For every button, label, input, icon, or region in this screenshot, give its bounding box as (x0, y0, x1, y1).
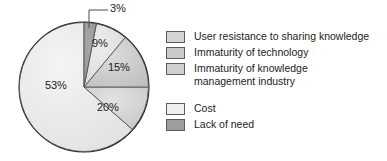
legend-swatch-icon-user-resistance (166, 31, 185, 43)
legend-swatch-icon-immaturity-km-industry (166, 63, 185, 75)
legend-swatch-icon-lack-of-need (166, 119, 185, 131)
legend-swatch-icon-cost (166, 103, 185, 115)
legend-group-top: User resistance to sharing knowledge Imm… (166, 30, 386, 88)
legend-label-line-2: management industry (194, 75, 308, 88)
legend-label-user-resistance: User resistance to sharing knowledge (194, 30, 369, 43)
pie-label-9: 9% (92, 37, 108, 49)
pie-chart-figure: 3% 9% 15% 20% 53% User resistance to sha… (0, 0, 387, 161)
legend-item-user-resistance[interactable]: User resistance to sharing knowledge (166, 30, 386, 43)
pie-label-3: 3% (110, 2, 126, 14)
legend: User resistance to sharing knowledge Imm… (166, 30, 386, 134)
pie-label-53: 53% (45, 79, 67, 91)
legend-label-line-1: Immaturity of knowledge (194, 62, 308, 74)
pie-label-15: 15% (108, 61, 130, 73)
legend-item-cost[interactable]: Cost (166, 102, 386, 115)
legend-item-immaturity-technology[interactable]: Immaturity of technology (166, 46, 386, 59)
legend-label-immaturity-technology: Immaturity of technology (194, 46, 308, 59)
legend-item-immaturity-km-industry[interactable]: Immaturity of knowledge management indus… (166, 62, 386, 88)
legend-label-cost: Cost (194, 102, 216, 115)
legend-group-bottom: Cost Lack of need (166, 102, 386, 131)
legend-swatch-icon-immaturity-technology (166, 47, 185, 59)
legend-item-lack-of-need[interactable]: Lack of need (166, 118, 386, 131)
pie-svg (0, 0, 165, 161)
legend-separator (166, 91, 386, 102)
pie-chart-plot: 3% 9% 15% 20% 53% (0, 0, 165, 161)
legend-label-immaturity-km-industry: Immaturity of knowledge management indus… (194, 62, 308, 88)
legend-label-lack-of-need: Lack of need (194, 118, 254, 131)
pie-label-20: 20% (97, 101, 119, 113)
